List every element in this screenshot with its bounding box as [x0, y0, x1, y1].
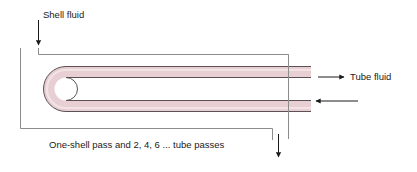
- tube-fluid-label: Tube fluid: [350, 71, 391, 82]
- heat-exchanger-svg: Shell fluid Tube fluid One-shell pass an…: [0, 0, 417, 172]
- shell-fluid-label: Shell fluid: [43, 9, 84, 20]
- tube-inner-outline: [66, 78, 311, 101]
- heat-exchanger-diagram: Shell fluid Tube fluid One-shell pass an…: [0, 0, 417, 172]
- diagram-caption: One-shell pass and 2, 4, 6 ... tube pass…: [49, 139, 225, 150]
